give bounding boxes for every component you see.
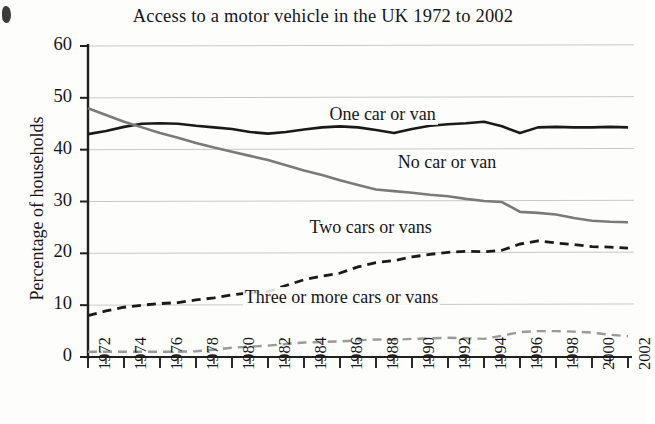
series-label-2: Two cars or vans [308,217,434,238]
y-tick-label: 60 [28,34,72,55]
series-label-0: One car or van [327,104,437,125]
y-tick-label: 20 [28,241,72,262]
x-tick-label: 2000 [599,337,619,370]
x-tick-label: 1986 [347,337,367,370]
series-label-1: No car or van [396,152,498,173]
gridlines [88,45,634,357]
y-tick-label: 30 [28,190,72,211]
x-tick-label: 1990 [419,337,439,370]
x-tick-label: 1996 [527,337,547,370]
x-tick-label: 1982 [275,337,295,370]
x-tick-label: 1974 [131,337,151,370]
y-tick-label: 40 [28,138,72,159]
x-tick-label: 1976 [167,337,187,370]
gridline [88,97,634,98]
gridline [88,200,634,201]
y-tick-label: 0 [28,345,72,366]
x-tick-label: 1972 [95,337,115,370]
x-tick-label: 1998 [563,337,583,370]
x-tick-label: 2002 [635,337,655,370]
x-tick-label: 1980 [239,337,259,370]
x-tick-label: 1984 [311,337,331,370]
x-tick-label: 1994 [491,337,511,370]
series-label-3: Three or more cars or vans [243,287,440,308]
gridline [88,148,634,149]
y-tick-label: 50 [28,86,72,107]
y-tick-label: 10 [28,293,72,314]
gridline [88,45,634,46]
x-tick-label: 1992 [455,337,475,370]
axis-ticks [80,46,628,368]
x-tick-label: 1978 [203,337,223,370]
gridline [88,252,634,253]
x-tick-label: 1988 [383,337,403,370]
